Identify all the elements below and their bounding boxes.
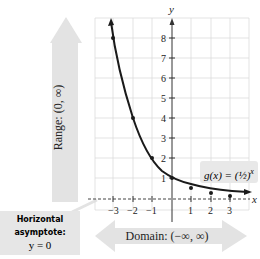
asymptote-callout: Horizontal asymptote: y = 0 <box>0 211 80 255</box>
svg-text:x: x <box>251 193 257 205</box>
function-text: g(x) = (½) <box>204 169 250 181</box>
function-exponent: x <box>250 167 254 176</box>
svg-text:−2: −2 <box>127 205 138 216</box>
svg-text:4: 4 <box>161 113 166 124</box>
svg-text:3: 3 <box>227 205 232 216</box>
svg-text:8: 8 <box>161 33 166 44</box>
svg-text:3: 3 <box>161 133 166 144</box>
svg-text:−1: −1 <box>146 205 157 216</box>
svg-text:1: 1 <box>188 205 193 216</box>
svg-text:2: 2 <box>161 153 166 164</box>
range-label: Range: (0, ∞) <box>51 58 66 178</box>
svg-text:−3: −3 <box>108 205 119 216</box>
svg-text:7: 7 <box>161 53 166 64</box>
asymptote-equation: y = 0 <box>0 239 80 252</box>
svg-text:1: 1 <box>161 173 166 184</box>
svg-text:6: 6 <box>161 73 166 84</box>
asymptote-title: Horizontal asymptote: <box>0 213 80 239</box>
domain-label: Domain: (−∞, ∞) <box>112 229 222 244</box>
svg-text:2: 2 <box>208 205 213 216</box>
svg-text:5: 5 <box>161 93 166 104</box>
function-label: g(x) = (½)x <box>200 161 258 183</box>
svg-text:y: y <box>168 3 174 15</box>
